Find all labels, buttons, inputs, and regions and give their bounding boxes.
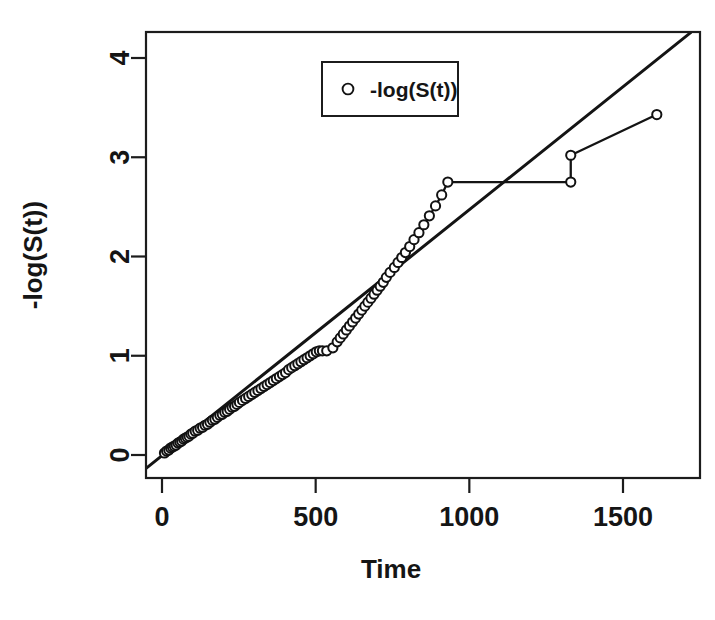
x-tick-label: 1500 [593, 502, 653, 532]
chart-canvas: 050010001500 01234 -log(S(t)) Time -log(… [0, 0, 715, 620]
x-tick-label: 0 [154, 502, 169, 532]
y-tick-label: 1 [105, 348, 135, 363]
legend-label: -log(S(t)) [370, 78, 457, 101]
data-point [437, 190, 446, 199]
y-tick-label: 2 [105, 249, 135, 264]
data-point [566, 151, 575, 160]
data-point [425, 211, 434, 220]
data-point [652, 110, 661, 119]
y-axis-title: -log(S(t)) [18, 201, 48, 309]
data-point [566, 177, 575, 186]
data-point [443, 177, 452, 186]
data-point [431, 201, 440, 210]
chart-figure: 050010001500 01234 -log(S(t)) Time -log(… [0, 0, 715, 620]
x-axis-title: Time [361, 554, 421, 584]
y-tick-label: 0 [105, 447, 135, 462]
y-tick-label: 3 [105, 150, 135, 165]
y-tick-label: 4 [105, 50, 135, 65]
data-point [419, 220, 428, 229]
x-tick-label: 500 [293, 502, 338, 532]
legend: -log(S(t)) [322, 62, 458, 116]
x-tick-label: 1000 [439, 502, 499, 532]
legend-circle-icon [343, 84, 354, 95]
